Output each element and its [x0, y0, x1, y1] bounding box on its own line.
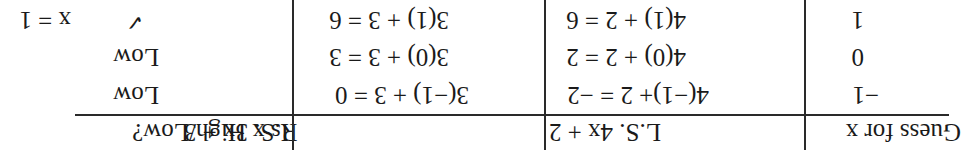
row2-guess: 0	[852, 42, 865, 72]
row1-right-side: 3(−1) + 3 = 0	[335, 80, 469, 110]
row2-left-side: 4(0) + 2 = 2	[566, 42, 686, 72]
column-divider-1	[804, 0, 806, 150]
row3-guess: 1	[852, 5, 865, 35]
header-guess: Guess for x	[811, 117, 961, 147]
row1-guess: −1	[852, 80, 879, 110]
column-divider-3	[292, 0, 294, 150]
column-divider-2	[544, 0, 546, 150]
row3-checkmark: ✓	[126, 7, 144, 37]
row2-right-side: 3(0) + 3 = 3	[329, 42, 449, 72]
row1-left-side: 4(−1)+ 2 = −2	[567, 80, 709, 110]
row1-result: Low	[113, 80, 159, 110]
header-divider	[75, 114, 949, 116]
header-left-side: L.S. 4x + 2	[549, 117, 789, 147]
row3-right-side: 3(1) + 3 = 6	[329, 5, 449, 35]
row2-result: Low	[113, 42, 159, 72]
answer-text: x = 1	[19, 5, 71, 35]
row3-left-side: 4(1) + 2 = 6	[566, 5, 686, 35]
header-high-low: Is x High/Low?	[74, 117, 289, 147]
